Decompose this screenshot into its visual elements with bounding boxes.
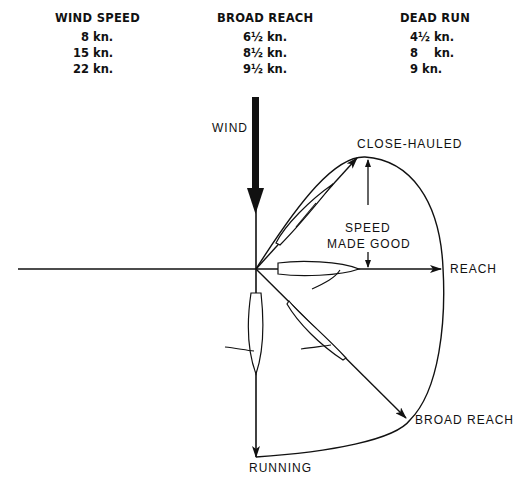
made-good-label: MADE GOOD	[327, 237, 411, 251]
boat-running-icon	[225, 293, 263, 374]
wind-label: WIND	[212, 121, 248, 135]
boat-reach-icon	[278, 261, 359, 289]
broad-reach-label: BROAD REACH	[415, 413, 514, 427]
boat-broad-reach-icon	[287, 301, 346, 360]
speed-label: SPEED	[345, 221, 391, 235]
polar-diagram: WIND CLOSE-HAULED SPEED MADE GOOD REACH …	[0, 0, 527, 489]
wind-arrow-icon	[247, 97, 264, 214]
close-hauled-label: CLOSE-HAULED	[357, 137, 462, 151]
boat-close-hauled-icon	[276, 184, 333, 245]
running-label: RUNNING	[249, 461, 312, 475]
polar-curve	[256, 157, 444, 457]
reach-label: REACH	[450, 262, 497, 276]
